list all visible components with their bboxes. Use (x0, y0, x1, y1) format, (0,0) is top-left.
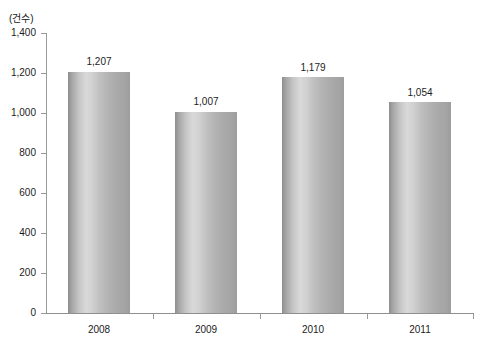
y-axis-tick-label: 1,200 (11, 66, 36, 79)
x-axis-tick (367, 314, 368, 319)
plot-area: 1,400 1,200 1,000 800 600 400 200 0 (46, 33, 474, 313)
bars-layer: 1,207 1,007 1,179 1,054 (46, 33, 474, 313)
y-axis-tick-label: 800 (19, 146, 36, 159)
x-axis-category-label: 2008 (68, 323, 130, 336)
bar[interactable] (282, 77, 344, 313)
x-axis-category-label: 2009 (175, 323, 237, 336)
x-axis-category-label: 2011 (389, 323, 451, 336)
y-axis-tick: 0 (41, 313, 46, 314)
bar-value-label: 1,207 (86, 56, 111, 68)
bar[interactable] (175, 112, 237, 313)
x-axis-category-label: 2010 (282, 323, 344, 336)
bar-group: 1,007 (175, 33, 237, 313)
bar[interactable] (68, 72, 130, 313)
bar-value-label: 1,179 (300, 62, 325, 74)
bar-value-label: 1,054 (407, 87, 432, 99)
y-axis-tick-label: 200 (19, 266, 36, 279)
y-axis-tick-label: 0 (30, 306, 36, 319)
y-axis-tick-label: 400 (19, 226, 36, 239)
bar-group: 1,054 (389, 33, 451, 313)
bar-value-label: 1,007 (193, 96, 218, 108)
y-axis-tick-label: 1,400 (11, 26, 36, 39)
bar-group: 1,207 (68, 33, 130, 313)
x-axis-tick (153, 314, 154, 319)
bar-chart: (건수) 1,400 1,200 1,000 800 600 400 200 0 (0, 0, 485, 348)
bar[interactable] (389, 102, 451, 313)
y-axis-tick-label: 600 (19, 186, 36, 199)
x-axis-tick (260, 314, 261, 319)
y-axis-unit-label: (건수) (9, 13, 34, 25)
y-axis-tick-label: 1,000 (11, 106, 36, 119)
bar-group: 1,179 (282, 33, 344, 313)
x-axis-tick (473, 314, 474, 319)
